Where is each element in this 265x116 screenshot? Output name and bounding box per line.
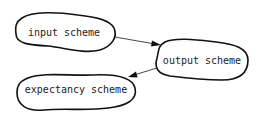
node-input-scheme: input scheme — [16, 13, 116, 52]
edge-output-to-expectancy — [128, 68, 157, 78]
node-expectancy-scheme: expectancy scheme — [17, 75, 135, 111]
arrowhead-icon — [128, 72, 138, 78]
edge-input-to-output — [115, 37, 161, 47]
arrowhead-icon — [151, 41, 161, 47]
node-output-label: output scheme — [163, 55, 241, 66]
edge-line — [115, 37, 155, 44]
node-output-scheme: output scheme — [156, 39, 248, 80]
scheme-diagram: input scheme output scheme expectancy sc… — [0, 0, 265, 116]
node-expectancy-label: expectancy scheme — [25, 84, 127, 95]
edge-line — [134, 68, 157, 75]
node-input-label: input scheme — [28, 27, 100, 38]
